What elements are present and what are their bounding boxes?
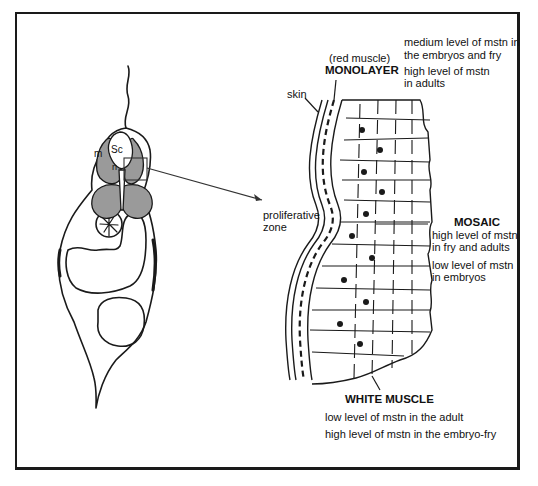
- ventral-muscle-right: [122, 185, 153, 219]
- label-spinal-cord: Sc: [111, 144, 123, 157]
- red-muscle-note: (red muscle): [329, 52, 390, 65]
- proliferative-line2: zone: [263, 221, 287, 234]
- label-notochord: n: [112, 161, 117, 174]
- white-muscle-line1: low level of mstn in the adult: [325, 411, 463, 424]
- mosaic-line2: in fry and adults: [432, 241, 510, 254]
- monolayer-line3: high level of mstn: [404, 65, 490, 78]
- mosaic-title: MOSAIC: [454, 216, 500, 229]
- body-cavity: [66, 213, 146, 293]
- skin-pointer: [305, 98, 318, 112]
- skin-label: skin: [287, 88, 307, 101]
- mosaic-line4: in embryos: [432, 271, 486, 284]
- monolayer-title: MONOLAYER: [325, 64, 399, 77]
- mosaic-line1: high level of mstn: [432, 229, 518, 242]
- mosaic-line3: low level of mstn: [432, 259, 513, 272]
- monolayer-line4: in adults: [404, 77, 445, 90]
- white-muscle-line2: high level of mstn in the embryo-fry: [325, 428, 496, 441]
- dorsal-fin: [125, 66, 129, 128]
- white-muscle-title: WHITE MUSCLE: [345, 393, 434, 406]
- proliferative-line1: proliferative: [263, 209, 320, 222]
- monolayer-line2: the embryos and fry: [404, 49, 501, 62]
- monolayer-line1: medium level of mstn in: [404, 36, 520, 49]
- monolayer-pointer: [334, 80, 336, 100]
- zoom-arrow: [147, 168, 262, 200]
- white-muscle-pointer: [372, 376, 380, 390]
- ventral-muscle-left: [92, 185, 123, 219]
- label-muscle: m: [94, 148, 102, 161]
